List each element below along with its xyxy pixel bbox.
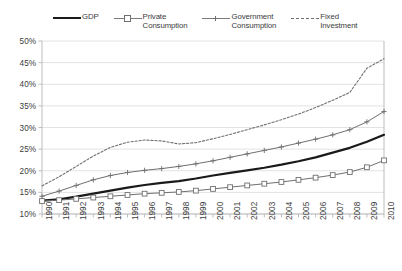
y-axis-tick-label: 50% [0,37,36,46]
data-point-marker-square [279,180,284,185]
y-axis-tick-label: 35% [0,101,36,110]
y-axis-tick-label: 40% [0,80,36,89]
data-point-marker-square [382,158,387,163]
y-axis-tick-label: 25% [0,145,36,154]
data-point-marker-square [142,191,147,196]
y-axis-tick-label: 30% [0,123,36,132]
x-axis-tick-label: 1994 [114,202,123,220]
series-line-fixed-investment [42,59,384,186]
x-axis-tick-label: 2000 [216,202,225,220]
x-axis-tick-label: 2001 [233,202,242,220]
x-axis-tick-label: 2007 [336,202,345,220]
data-point-marker-square [330,173,335,178]
data-point-marker-square [125,193,130,198]
x-axis-tick-label: 2004 [285,202,294,220]
x-axis-tick-label: 1992 [79,202,88,220]
x-axis-tick-label: 1997 [165,202,174,220]
data-point-marker-square [313,175,318,180]
data-point-marker-square [91,195,96,200]
data-point-marker-square [194,188,199,193]
chart-container: GDPPrivate ConsumptionGovernment Consump… [0,0,402,271]
x-axis-tick-label: 2009 [370,202,379,220]
data-point-marker-square [40,199,45,204]
x-axis-tick-label: 1999 [199,202,208,220]
data-point-marker-square [211,187,216,192]
x-axis-tick-label: 1991 [62,202,71,220]
x-axis-tick-label: 1996 [148,202,157,220]
data-point-marker-square [108,194,113,199]
data-point-marker-square [159,190,164,195]
data-point-marker-square [245,183,250,188]
y-axis-tick-label: 10% [0,210,36,219]
x-axis-tick-label: 2003 [268,202,277,220]
data-point-marker-square [228,185,233,190]
x-axis-tick-label: 2006 [319,202,328,220]
data-point-marker-square [347,170,352,175]
data-point-marker-square [57,198,62,203]
data-point-marker-square [365,165,370,170]
x-axis-tick-label: 1993 [97,202,106,220]
data-point-marker-square [262,181,267,186]
data-point-marker-square [176,190,181,195]
series-line-government-consumption [42,112,384,197]
y-axis-tick-label: 15% [0,188,36,197]
x-axis-tick-label: 1990 [45,202,54,220]
plot-area [0,0,402,271]
data-point-marker-square [74,196,79,201]
data-point-marker-square [296,177,301,182]
x-axis-tick-label: 1995 [131,202,140,220]
x-axis-tick-label: 1998 [182,202,191,220]
chart-svg [0,0,402,271]
x-axis-tick-label: 2005 [302,202,311,220]
x-axis-tick-label: 2002 [250,202,259,220]
y-axis-tick-label: 45% [0,58,36,67]
x-axis-tick-label: 2008 [353,202,362,220]
x-axis-tick-label: 2010 [387,202,396,220]
y-axis-tick-label: 20% [0,166,36,175]
